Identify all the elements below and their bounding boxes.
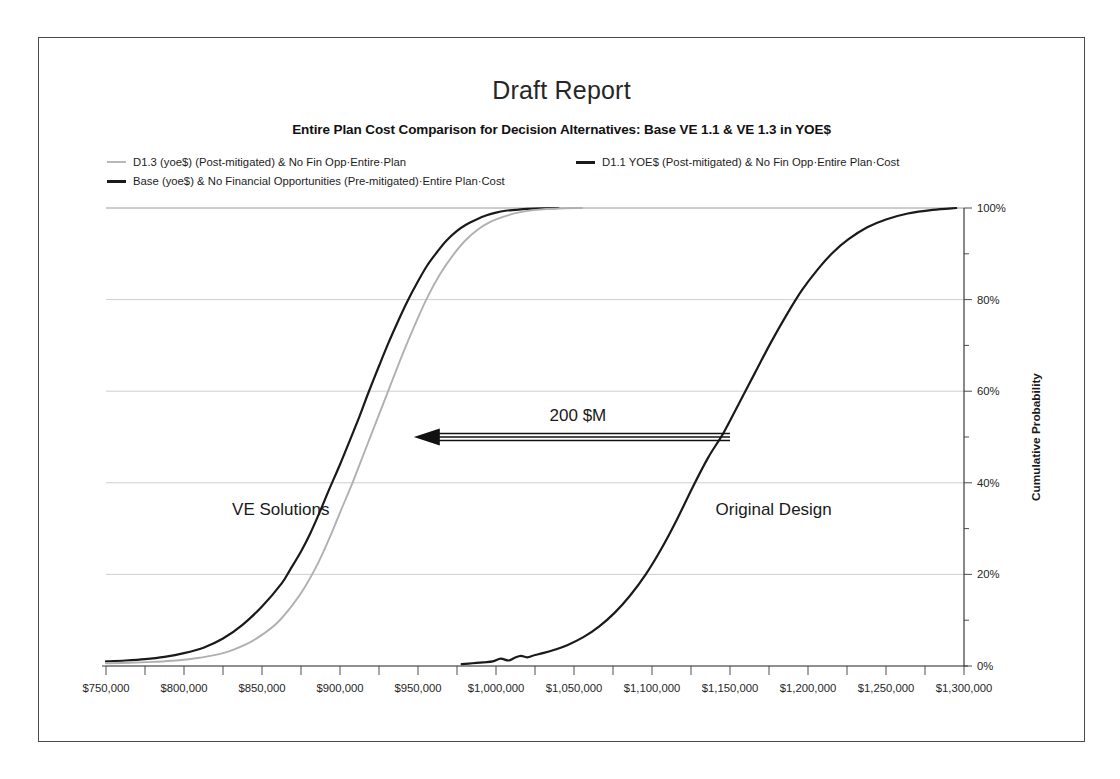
delta-arrowhead: [414, 429, 440, 446]
x-tick-label: $900,000: [316, 682, 363, 694]
y-tick-label: 100%: [977, 202, 1006, 214]
x-tick-label: $1,050,000: [546, 682, 603, 694]
y-axis-labels: 0%20%40%60%80%100%Cumulative Probability: [977, 202, 1043, 672]
y-tick-label: 20%: [977, 568, 1000, 580]
plot-annotations: 200 $MVE SolutionsOriginal Design: [232, 406, 832, 519]
x-tick-label: $1,000,000: [468, 682, 525, 694]
series-line-0: [106, 208, 558, 661]
x-tick-label: $1,300,000: [936, 682, 993, 694]
left-zone-label: VE Solutions: [232, 500, 329, 519]
right-zone-label: Original Design: [716, 500, 832, 519]
x-tick-label: $800,000: [160, 682, 207, 694]
x-tick-label: $850,000: [238, 682, 285, 694]
x-tick-label: $1,150,000: [702, 682, 759, 694]
x-tick-label: $750,000: [82, 682, 129, 694]
plot-area: 200 $MVE SolutionsOriginal Design $750,0…: [39, 38, 1086, 743]
y-tick-label: 80%: [977, 294, 1000, 306]
series-line-2: [462, 208, 957, 664]
y-tick-label: 60%: [977, 385, 1000, 397]
y-tick-label: 40%: [977, 477, 1000, 489]
x-tick-label: $950,000: [394, 682, 441, 694]
x-tick-label: $1,200,000: [780, 682, 837, 694]
y-axis-ticks: [964, 208, 972, 666]
x-tick-label: $1,100,000: [624, 682, 681, 694]
x-tick-label: $1,250,000: [858, 682, 915, 694]
x-axis-labels: $750,000$800,000$850,000$900,000$950,000…: [82, 682, 992, 694]
x-axis-ticks: [102, 666, 968, 675]
delta-label: 200 $M: [550, 406, 607, 425]
y-tick-label: 0%: [977, 660, 993, 672]
y-axis-title: Cumulative Probability: [1029, 373, 1043, 501]
chart-svg: 200 $MVE SolutionsOriginal Design $750,0…: [39, 38, 1086, 743]
series-curves: [106, 208, 956, 664]
chart-frame: Draft Report Entire Plan Cost Comparison…: [38, 37, 1085, 742]
series-line-1: [106, 208, 582, 663]
